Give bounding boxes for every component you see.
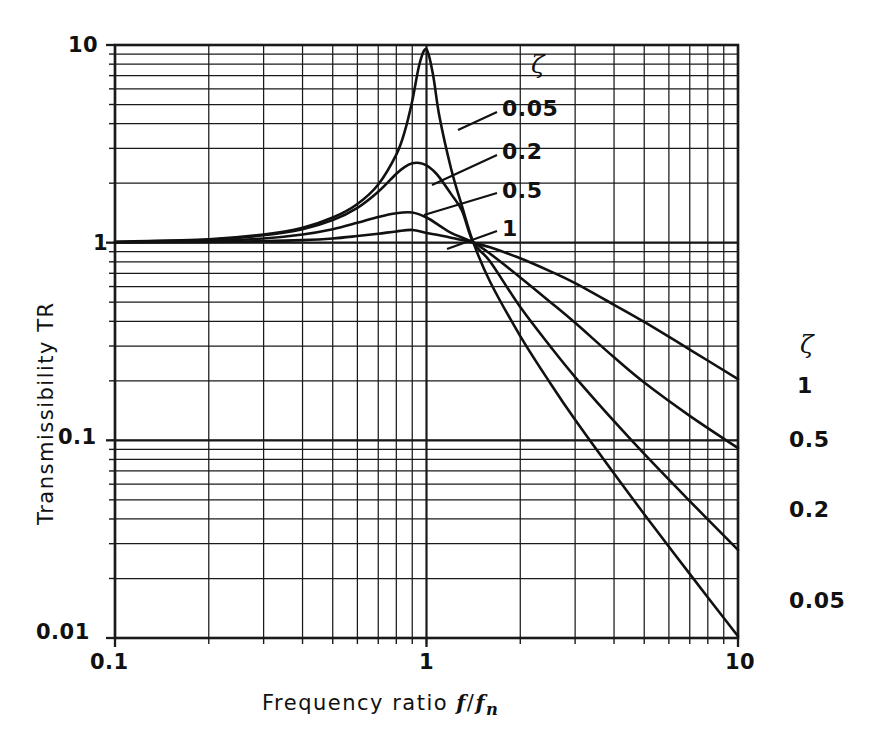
- transmissibility-chart: 10 1 0.1 0.01 0.1 1 10 Transmissibility …: [0, 0, 875, 743]
- grid-lines: [115, 45, 738, 638]
- y-tick-label-0.1: 0.1: [58, 425, 97, 449]
- legend-leader-lines: [424, 112, 497, 249]
- x-tick-label-0.1: 0.1: [90, 650, 129, 674]
- legend-top-item-0.2: 0.2: [502, 139, 542, 164]
- x-axis-title-f-denominator: f: [475, 690, 486, 715]
- legend-right-item-1: 1: [797, 373, 813, 398]
- legend-top-item-0.5: 0.5: [502, 178, 542, 203]
- legend-right-item-0.2: 0.2: [789, 497, 829, 522]
- leader-line-0.5: [424, 193, 497, 215]
- legend-top-item-0.05: 0.05: [502, 96, 558, 121]
- legend-right-item-0.5: 0.5: [789, 427, 829, 452]
- legend-right-title: ζ: [800, 330, 814, 359]
- x-tick-label-10: 10: [725, 650, 755, 674]
- y-axis-title: Transmissibility TR: [34, 301, 58, 525]
- legend-top-item-1: 1: [502, 216, 518, 241]
- legend-top-title: ζ: [531, 50, 545, 79]
- y-tick-label-0.01: 0.01: [36, 620, 90, 644]
- x-tick-label-1: 1: [419, 650, 434, 674]
- legend-right-item-0.05: 0.05: [789, 588, 845, 613]
- x-axis-title-text: Frequency ratio: [262, 691, 456, 715]
- x-axis-title-subscript-n: n: [486, 700, 499, 719]
- chart-canvas: [0, 0, 875, 743]
- y-tick-label-1: 1: [93, 231, 108, 255]
- x-axis-title-f-numerator: f: [456, 690, 467, 715]
- y-tick-label-10: 10: [68, 33, 98, 57]
- leader-line-0.2: [432, 155, 497, 185]
- x-axis-title: Frequency ratio f/fn: [262, 690, 499, 719]
- leader-line-0.05: [458, 112, 497, 130]
